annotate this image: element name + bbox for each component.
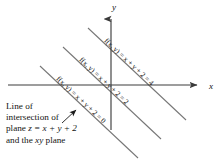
caption-line-4-suffix: plane — [43, 135, 65, 145]
caption-line-1: Line of — [6, 101, 102, 112]
caption-line-4: and the xy plane — [6, 135, 102, 146]
caption: Line of intersection of plane z = x + y … — [6, 101, 102, 146]
x-axis-label: x — [209, 82, 213, 91]
caption-line-3-math: z = x + y + 2 — [28, 123, 77, 133]
caption-line-3: plane z = x + y + 2 — [6, 123, 102, 134]
caption-line-2: intersection of — [6, 112, 102, 123]
caption-line-4-prefix: and the — [6, 135, 35, 145]
y-axis-label: y — [112, 3, 116, 12]
caption-line-3-prefix: plane — [6, 123, 28, 133]
level-curves-figure: y x f(x, y) = x + y + 2 = 4 f(x, y) = x … — [0, 0, 221, 160]
